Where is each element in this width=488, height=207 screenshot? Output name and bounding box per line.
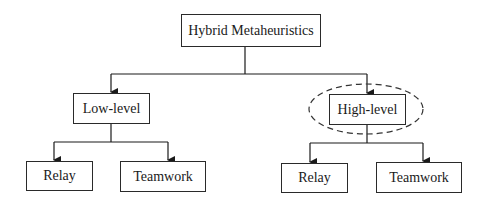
leaf-label: Relay bbox=[43, 168, 76, 184]
branch-node-high-level: High-level bbox=[329, 94, 406, 125]
leaf-node-high-relay: Relay bbox=[281, 163, 348, 193]
leaf-label: Relay bbox=[298, 170, 331, 186]
leaf-node-high-teamwork: Teamwork bbox=[376, 162, 462, 193]
leaf-label: Teamwork bbox=[133, 169, 193, 185]
branch-label: High-level bbox=[338, 102, 398, 118]
branch-node-low-level: Low-level bbox=[73, 93, 150, 124]
leaf-label: Teamwork bbox=[389, 170, 449, 186]
leaf-node-low-relay: Relay bbox=[26, 161, 93, 191]
branch-label: Low-level bbox=[83, 101, 141, 117]
leaf-node-low-teamwork: Teamwork bbox=[120, 161, 206, 192]
root-node-hybrid-metaheuristics: Hybrid Metaheuristics bbox=[181, 14, 321, 47]
root-label: Hybrid Metaheuristics bbox=[188, 23, 314, 39]
